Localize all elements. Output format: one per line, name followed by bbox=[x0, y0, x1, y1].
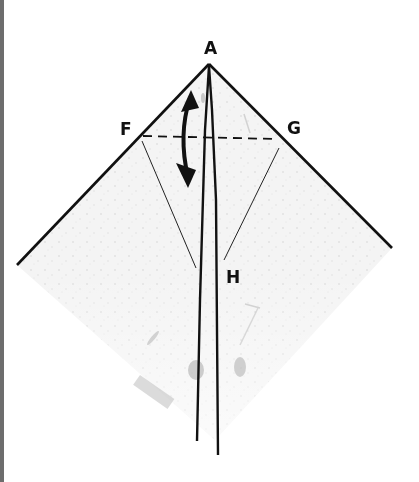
label-a: A bbox=[204, 40, 217, 57]
label-g: G bbox=[287, 120, 301, 137]
label-h: H bbox=[226, 269, 240, 286]
label-f: F bbox=[120, 121, 132, 138]
origami-diagram bbox=[0, 0, 419, 482]
